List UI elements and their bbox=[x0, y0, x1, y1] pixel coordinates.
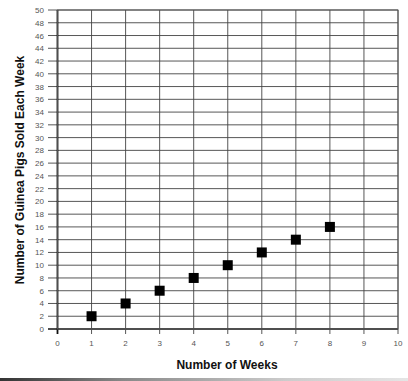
y-tick-label: 8 bbox=[40, 274, 45, 283]
grid-lines bbox=[48, 10, 398, 334]
x-tick-label: 0 bbox=[55, 339, 60, 348]
x-tick-label: 1 bbox=[89, 339, 94, 348]
y-tick-label: 32 bbox=[35, 121, 44, 130]
x-tick-label: 3 bbox=[157, 339, 162, 348]
y-axis-tick-labels: 0246810121416182022242628303234363840424… bbox=[35, 6, 44, 334]
y-tick-label: 28 bbox=[35, 146, 44, 155]
data-point-square bbox=[87, 311, 97, 321]
y-tick-label: 36 bbox=[35, 95, 44, 104]
x-tick-label: 6 bbox=[260, 339, 265, 348]
y-tick-label: 2 bbox=[40, 312, 45, 321]
y-tick-label: 50 bbox=[35, 6, 44, 15]
y-tick-label: 30 bbox=[35, 134, 44, 143]
x-tick-label: 5 bbox=[226, 339, 231, 348]
y-tick-label: 38 bbox=[35, 83, 44, 92]
y-tick-label: 34 bbox=[35, 108, 44, 117]
y-tick-label: 48 bbox=[35, 19, 44, 28]
y-axis-title: Number of Guinea Pigs Sold Each Week bbox=[13, 55, 27, 284]
y-tick-label: 46 bbox=[35, 32, 44, 41]
y-tick-label: 22 bbox=[35, 185, 44, 194]
y-tick-label: 26 bbox=[35, 159, 44, 168]
y-tick-label: 44 bbox=[35, 44, 44, 53]
y-tick-label: 0 bbox=[40, 325, 45, 334]
data-point-square bbox=[189, 273, 199, 283]
scatter-chart: 0246810121416182022242628303234363840424… bbox=[0, 0, 408, 381]
data-point-square bbox=[291, 235, 301, 245]
y-tick-label: 10 bbox=[35, 261, 44, 270]
x-tick-label: 8 bbox=[328, 339, 333, 348]
x-axis-title: Number of Weeks bbox=[176, 358, 277, 372]
y-tick-label: 12 bbox=[35, 248, 44, 257]
data-point-square bbox=[257, 247, 267, 257]
x-tick-label: 2 bbox=[123, 339, 128, 348]
data-point-square bbox=[121, 298, 131, 308]
y-tick-label: 40 bbox=[35, 70, 44, 79]
x-tick-label: 4 bbox=[191, 339, 196, 348]
x-tick-label: 10 bbox=[394, 339, 403, 348]
y-tick-label: 42 bbox=[35, 57, 44, 66]
y-tick-label: 6 bbox=[40, 287, 45, 296]
y-tick-label: 16 bbox=[35, 223, 44, 232]
data-point-square bbox=[155, 286, 165, 296]
y-tick-label: 24 bbox=[35, 172, 44, 181]
x-axis-tick-labels: 012345678910 bbox=[55, 339, 403, 348]
x-tick-label: 7 bbox=[294, 339, 299, 348]
y-tick-label: 20 bbox=[35, 197, 44, 206]
data-point-square bbox=[223, 260, 233, 270]
y-tick-label: 18 bbox=[35, 210, 44, 219]
x-tick-label: 9 bbox=[362, 339, 367, 348]
y-tick-label: 4 bbox=[40, 299, 45, 308]
data-points bbox=[87, 222, 335, 321]
data-point-square bbox=[325, 222, 335, 232]
y-tick-label: 14 bbox=[35, 236, 44, 245]
